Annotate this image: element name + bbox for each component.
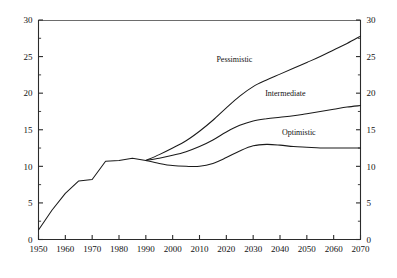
x-tick-label: 2040 [271,244,290,254]
series-label-pessimistic: Pessimistic [216,55,252,64]
x-axis-ticks: 1950196019701980199020002010202020302040… [30,235,371,254]
y-axis-right-ticks: 051015202530 [356,15,376,245]
chart-container: 1950196019701980199020002010202020302040… [0,0,397,278]
y-tick-label: 30 [24,15,34,25]
y-axis-left-ticks: 051015202530 [24,15,44,245]
x-tick-label: 2030 [244,244,263,254]
x-tick-label: 1990 [137,244,156,254]
series-line-pessimistic [146,36,361,160]
y-tick-label: 30 [367,15,377,25]
series-line-optimistic [146,144,361,166]
y-tick-label: 25 [367,52,377,62]
x-tick-label: 1960 [56,244,75,254]
y-tick-label: 5 [367,198,372,208]
x-tick-label: 1970 [83,244,102,254]
x-tick-label: 2070 [352,244,371,254]
x-tick-label: 1980 [110,244,129,254]
x-tick-label: 2020 [217,244,236,254]
series-line-intermediate [146,106,361,161]
y-tick-label: 20 [367,88,377,98]
y-tick-label: 0 [28,235,33,245]
y-tick-label: 10 [24,162,34,172]
series-label-optimistic: Optimistic [282,128,316,137]
y-tick-label: 0 [367,235,372,245]
y-tick-label: 25 [24,52,34,62]
y-tick-label: 20 [24,88,34,98]
x-tick-label: 2060 [325,244,344,254]
y-tick-label: 15 [24,125,34,135]
x-tick-label: 2000 [164,244,183,254]
series-annotation-group: PessimisticIntermediateOptimistic [216,55,316,137]
x-tick-label: 2010 [191,244,210,254]
y-tick-label: 5 [28,198,33,208]
line-chart: 1950196019701980199020002010202020302040… [0,0,397,278]
y-tick-label: 15 [367,125,377,135]
x-tick-label: 2050 [298,244,317,254]
x-tick-label: 1950 [30,244,49,254]
y-tick-label: 10 [367,162,377,172]
series-line-historical [39,158,146,230]
series-label-intermediate: Intermediate [265,89,306,98]
